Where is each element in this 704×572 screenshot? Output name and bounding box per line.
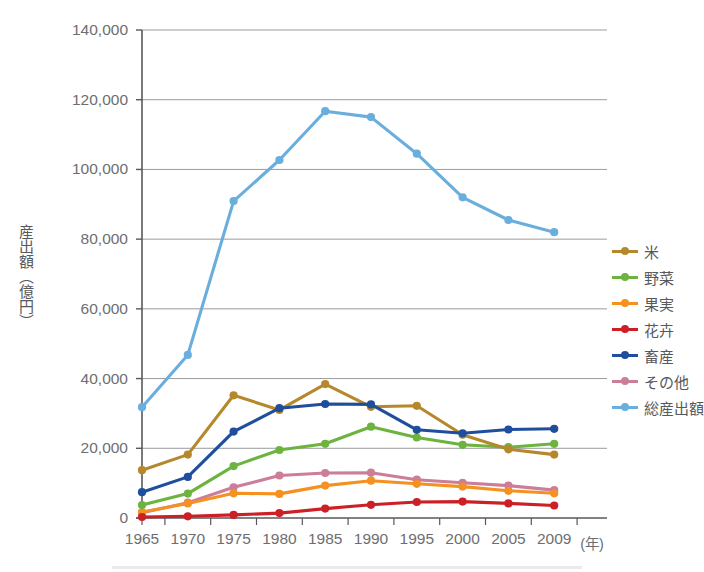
legend-item: 野菜: [612, 264, 696, 290]
series-line: [142, 502, 554, 517]
legend-marker-icon: [621, 403, 629, 411]
legend-item: その他: [612, 368, 696, 394]
series-marker: [275, 490, 283, 498]
series-marker: [504, 499, 512, 507]
series-marker: [550, 501, 558, 509]
series-marker: [367, 477, 375, 485]
series-marker: [184, 351, 192, 359]
y-tick-label: 60,000: [36, 300, 128, 318]
series-marker: [138, 403, 146, 411]
series-marker: [230, 391, 238, 399]
series-marker: [184, 512, 192, 520]
series-marker: [504, 216, 512, 224]
legend-marker-icon: [621, 325, 629, 333]
plot-area: [142, 30, 607, 518]
series-marker: [138, 513, 146, 521]
legend-item-label: 米: [644, 241, 659, 262]
x-tick-label: 1965: [125, 530, 159, 548]
series-marker: [550, 440, 558, 448]
legend-swatch: [612, 245, 638, 257]
y-axis-title: 産出額（億円）: [8, 196, 34, 356]
series-line: [142, 384, 554, 470]
series-marker: [367, 113, 375, 121]
x-tick-label: 1970: [171, 530, 205, 548]
series-marker: [367, 423, 375, 431]
series-marker: [275, 471, 283, 479]
plot-svg: [142, 30, 607, 518]
series-marker: [459, 498, 467, 506]
series-marker: [321, 505, 329, 513]
x-tick-label: 2005: [491, 530, 525, 548]
y-axis-tick-labels: 140,000120,000100,00080,00060,00040,0002…: [36, 0, 128, 572]
y-tick-label: 140,000: [36, 21, 128, 39]
series-marker: [138, 501, 146, 509]
legend-marker-icon: [621, 299, 629, 307]
series-marker: [275, 509, 283, 517]
series-marker: [550, 425, 558, 433]
legend-swatch: [612, 349, 638, 361]
series-marker: [413, 498, 421, 506]
series-marker: [413, 426, 421, 434]
series-marker: [367, 469, 375, 477]
series-marker: [275, 404, 283, 412]
x-tick-label: 1985: [308, 530, 342, 548]
series-marker: [459, 441, 467, 449]
series-marker: [184, 490, 192, 498]
x-tick-label: 1980: [262, 530, 296, 548]
series-marker: [230, 197, 238, 205]
x-axis-unit-label: (年): [580, 532, 604, 553]
x-tick-label: 1975: [216, 530, 250, 548]
legend-swatch: [612, 323, 638, 335]
y-tick-label: 120,000: [36, 91, 128, 109]
series-marker: [413, 402, 421, 410]
x-tick-label: 1990: [354, 530, 388, 548]
series-marker: [321, 400, 329, 408]
series-marker: [413, 480, 421, 488]
legend-item: 畜産: [612, 342, 696, 368]
series-marker: [230, 462, 238, 470]
legend-swatch: [612, 401, 638, 413]
legend-marker-icon: [621, 273, 629, 281]
legend-item: 花卉: [612, 316, 696, 342]
series-marker: [550, 489, 558, 497]
legend-item-label: 畜産: [644, 345, 674, 366]
series-marker: [275, 156, 283, 164]
series-marker: [275, 446, 283, 454]
series-marker: [138, 466, 146, 474]
series-marker: [321, 107, 329, 115]
legend-item: 総産出額: [612, 394, 696, 420]
series-marker: [459, 193, 467, 201]
series-marker: [504, 425, 512, 433]
legend-swatch: [612, 271, 638, 283]
legend-swatch: [612, 375, 638, 387]
legend-swatch: [612, 297, 638, 309]
y-tick-label: 40,000: [36, 370, 128, 388]
series-marker: [550, 451, 558, 459]
series-marker: [550, 228, 558, 236]
series-marker: [321, 469, 329, 477]
series-marker: [230, 511, 238, 519]
series-marker: [230, 428, 238, 436]
legend-item-label: 総産出額: [644, 397, 704, 418]
series-marker: [413, 150, 421, 158]
series-marker: [504, 487, 512, 495]
series-marker: [367, 400, 375, 408]
legend-item-label: その他: [644, 371, 689, 392]
y-tick-label: 20,000: [36, 439, 128, 457]
series-marker: [138, 488, 146, 496]
legend-item-label: 花卉: [644, 319, 674, 340]
series-marker: [184, 499, 192, 507]
series-marker: [321, 482, 329, 490]
series-marker: [367, 501, 375, 509]
series-line: [142, 111, 554, 407]
x-tick-label: 2009: [537, 530, 571, 548]
legend-marker-icon: [621, 351, 629, 359]
series-marker: [459, 483, 467, 491]
series-marker: [230, 489, 238, 497]
legend-marker-icon: [621, 377, 629, 385]
series-marker: [184, 473, 192, 481]
series-marker: [321, 380, 329, 388]
x-axis-tick-labels: 1965197019751980198519901995200020052009…: [0, 524, 696, 554]
page-edge-artifact: [112, 566, 582, 569]
